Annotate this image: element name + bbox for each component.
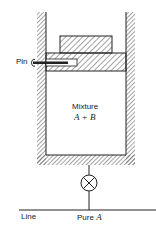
cylinder-walls [37, 12, 135, 165]
mixture-formula: A + B [74, 113, 95, 122]
mixture-title: Mixture [72, 103, 98, 111]
weight-block [60, 36, 112, 53]
pure-prefix: Pure [77, 213, 96, 222]
pin-label: Pin [16, 58, 28, 66]
valve-icon [81, 175, 97, 191]
pure-a-label: Pure A [77, 213, 102, 222]
pure-species: A [96, 212, 102, 222]
line-label: Line [21, 213, 36, 221]
